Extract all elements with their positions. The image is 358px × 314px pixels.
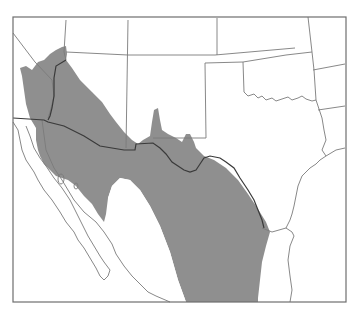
map-canvas xyxy=(0,0,358,314)
range-map xyxy=(0,0,358,314)
